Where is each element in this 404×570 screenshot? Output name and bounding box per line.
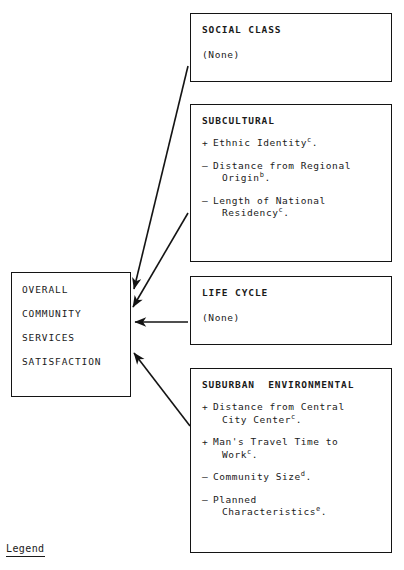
item-sign: –	[202, 471, 213, 484]
life-cycle-title: LIFE CYCLE	[202, 287, 391, 299]
arrow-social-class-to-outcome	[134, 66, 188, 289]
list-item: – Community Sized.	[202, 471, 391, 484]
item-text: Length of National	[213, 195, 326, 206]
arrow-suburban-to-outcome	[134, 353, 190, 426]
item-text: Planned	[213, 494, 257, 505]
arrow-subcultural-to-outcome	[133, 213, 188, 307]
item-text-2: Origin	[222, 172, 260, 183]
item-tail: .	[252, 449, 258, 460]
item-text-2: Characteristics	[222, 506, 316, 517]
item-wrap-line: Originb.	[213, 172, 351, 185]
outcome-box: OVERALL COMMUNITY SERVICES SATISFACTION	[11, 272, 131, 397]
suburban-environmental-box: SUBURBAN ENVIRONMENTAL + Distance from C…	[190, 368, 392, 553]
social-class-title: SOCIAL CLASS	[202, 24, 391, 36]
subcultural-item-list: + Ethnic Identityc. – Distance from Regi…	[202, 137, 391, 220]
list-item: + Ethnic Identityc.	[202, 137, 391, 150]
suburban-environmental-title: SUBURBAN ENVIRONMENTAL	[202, 379, 391, 391]
item-tail: .	[321, 506, 327, 517]
causal-path-diagram: OVERALL COMMUNITY SERVICES SATISFACTION …	[0, 0, 404, 570]
outcome-line-2: COMMUNITY	[22, 308, 130, 320]
item-text: Ethnic Identity	[213, 137, 307, 148]
item-label: Ethnic Identityc.	[213, 137, 318, 150]
item-text: Community Size	[213, 471, 301, 482]
subcultural-title: SUBCULTURAL	[202, 115, 391, 127]
item-label: Man's Travel Time toWorkc.	[213, 436, 338, 461]
item-text: Man's Travel Time to	[213, 436, 338, 447]
item-text: Distance from Regional	[213, 160, 351, 171]
item-tail: .	[296, 414, 302, 425]
item-sign: +	[202, 436, 213, 461]
item-text-2: City Center	[222, 414, 291, 425]
list-item: + Distance from CentralCity Centerc.	[202, 401, 391, 426]
item-text-2: Residency	[222, 207, 278, 218]
item-wrap-line: City Centerc.	[213, 414, 345, 427]
item-sign: +	[202, 137, 213, 150]
item-tail: .	[306, 471, 312, 482]
outcome-line-4: SATISFACTION	[22, 356, 130, 368]
item-tail: .	[264, 172, 270, 183]
item-text: Distance from Central	[213, 401, 345, 412]
item-label: Distance from CentralCity Centerc.	[213, 401, 345, 426]
item-sign: +	[202, 401, 213, 426]
item-text-2: Work	[222, 449, 247, 460]
item-sign: –	[202, 494, 213, 519]
item-label: Length of NationalResidencyc.	[213, 195, 326, 220]
list-item: + Man's Travel Time toWorkc.	[202, 436, 391, 461]
item-sign: –	[202, 195, 213, 220]
list-item: – Length of NationalResidencyc.	[202, 195, 391, 220]
item-label: PlannedCharacteristicse.	[213, 494, 327, 519]
social-class-none: (None)	[202, 49, 391, 61]
item-wrap-line: Residencyc.	[213, 207, 326, 220]
item-label: Distance from RegionalOriginb.	[213, 160, 351, 185]
life-cycle-none: (None)	[202, 312, 391, 324]
item-label: Community Sized.	[213, 471, 312, 484]
outcome-line-3: SERVICES	[22, 332, 130, 344]
list-item: – PlannedCharacteristicse.	[202, 494, 391, 519]
life-cycle-box: LIFE CYCLE (None)	[190, 276, 392, 345]
outcome-line-1: OVERALL	[22, 284, 130, 296]
subcultural-box: SUBCULTURAL + Ethnic Identityc. – Distan…	[190, 104, 392, 262]
item-tail: .	[312, 137, 318, 148]
item-wrap-line: Workc.	[213, 449, 338, 462]
legend-label: Legend	[6, 543, 45, 557]
suburban-item-list: + Distance from CentralCity Centerc. + M…	[202, 401, 391, 519]
social-class-box: SOCIAL CLASS (None)	[190, 13, 392, 82]
item-sign: –	[202, 160, 213, 185]
item-tail: .	[283, 207, 289, 218]
item-wrap-line: Characteristicse.	[213, 506, 327, 519]
list-item: – Distance from RegionalOriginb.	[202, 160, 391, 185]
